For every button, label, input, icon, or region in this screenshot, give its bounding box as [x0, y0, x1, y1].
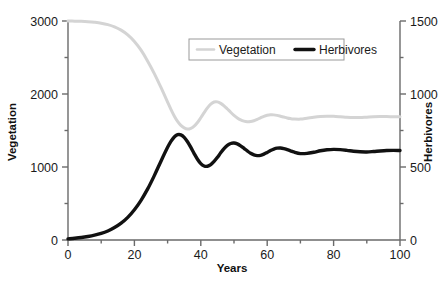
x-tick-label: 0 — [65, 248, 72, 262]
y-right-tick-label: 0 — [410, 234, 417, 248]
x-tick-label: 60 — [260, 248, 274, 262]
chart-figure: 0100020003000 050010001500 020406080100 … — [0, 0, 445, 283]
line-chart-svg: 0100020003000 050010001500 020406080100 … — [0, 0, 445, 283]
y-right-axis-title: Herbivores — [422, 102, 434, 162]
y-left-tick-label: 2000 — [30, 88, 58, 102]
legend-label-vegetation: Vegetation — [219, 43, 276, 57]
y-left-tick-label: 0 — [51, 234, 58, 248]
x-tick-label: 40 — [194, 248, 208, 262]
y-right-tick-label: 1000 — [410, 88, 438, 102]
x-tick-label: 20 — [127, 248, 141, 262]
x-tick-label: 100 — [390, 248, 411, 262]
y-left-tick-label: 3000 — [30, 15, 58, 29]
legend-label-herbivores: Herbivores — [319, 43, 377, 57]
y-left-tick-label: 1000 — [30, 161, 58, 175]
x-tick-label: 80 — [327, 248, 341, 262]
y-right-tick-label: 1500 — [410, 15, 438, 29]
x-axis-title: Years — [217, 262, 248, 274]
y-left-axis-title: Vegetation — [6, 103, 18, 161]
